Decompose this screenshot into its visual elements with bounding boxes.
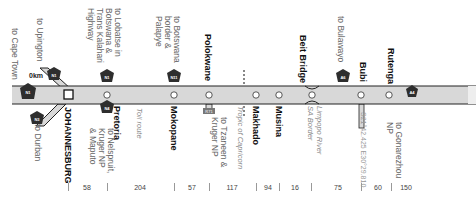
svg-text:A6: A6: [340, 75, 346, 80]
town-marker-musina: [276, 92, 282, 98]
svg-text:N1: N1: [25, 90, 31, 95]
label-limpopo-border: Limpopo River SA Border: [306, 106, 324, 154]
town-bubi: Bubi: [358, 62, 367, 82]
town-mokopane: Mokopane: [169, 106, 178, 151]
origin-marker: 0km: [29, 72, 43, 79]
johannesburg-marker: [64, 90, 73, 99]
town-polokwane: Polokwane: [203, 34, 212, 81]
label-toll-route: Toll route: [135, 108, 144, 139]
label-to-bulawayo: to Bulawayo: [336, 16, 345, 62]
town-marker-mokopane: [171, 92, 177, 98]
distance-mokopane-polokwane: 57: [188, 184, 196, 191]
town-beit-bridge: Beit Bridge: [298, 35, 307, 83]
distance-pretoria-mokopane: 204: [134, 184, 146, 191]
tick: [68, 183, 69, 191]
svg-text:N11: N11: [170, 75, 178, 80]
label-to-tzaneen: to Tzaneen & Kruger NP: [210, 117, 228, 167]
label-to-lobatse: to Lobatse in Botswana & Trans Kalahari …: [86, 8, 122, 63]
label-to-upington: to Upington: [35, 18, 44, 61]
svg-text:N4: N4: [104, 106, 110, 111]
distance-rutenga-onward: 150: [400, 184, 412, 191]
tick: [311, 183, 312, 191]
label-gps: S21°42.425 E30°29.810: [359, 112, 368, 187]
town-marker-bubi: [358, 92, 364, 98]
distance-bubi-rutenga: 60: [374, 184, 382, 191]
main-road: [12, 86, 476, 104]
label-to-nelspruit: to Nelspruit, Kruger NP & Maputo: [88, 128, 115, 173]
svg-text:A4: A4: [409, 90, 415, 95]
town-johannesburg: JOHANNESBURG: [63, 107, 72, 184]
tick: [174, 183, 175, 191]
tick: [391, 183, 392, 191]
tick: [107, 183, 108, 191]
tick: [361, 183, 362, 191]
tick: [209, 183, 210, 191]
distance-polokwane-makhado: 117: [226, 184, 237, 191]
town-makhado: Makhado: [251, 106, 260, 145]
town-marker-makhado: [253, 92, 259, 98]
distance-musina-beitbridge: 16: [291, 184, 299, 191]
svg-text:R71: R71: [205, 109, 213, 114]
distance-jhb-pretoria: 58: [83, 184, 91, 191]
tick: [256, 183, 257, 191]
label-to-gonarezhou: to Gonarezhou NP: [385, 122, 403, 178]
label-tropic-capricorn: Tropic of Capricorn: [236, 106, 245, 169]
town-musina: Musina: [274, 106, 283, 137]
town-marker-beitbridge: [309, 92, 315, 98]
label-to-cape-town: to Cape Town: [10, 28, 19, 80]
tick: [279, 183, 280, 191]
town-rutenga: Rutenga: [386, 48, 395, 84]
town-marker-rutenga: [386, 92, 392, 98]
svg-text:N1: N1: [51, 73, 57, 78]
distance-beitbridge-bubi: 75: [334, 184, 342, 191]
svg-text:N3: N3: [34, 117, 40, 122]
label-to-botswana-palapye: to Botswana border & Palapye: [154, 16, 181, 63]
distance-makhado-musina: 94: [264, 184, 272, 191]
town-marker-polokwane: [206, 92, 212, 98]
label-to-durban: to Durban: [33, 124, 42, 161]
svg-text:N1: N1: [104, 75, 110, 80]
town-marker-pretoria: [104, 92, 110, 98]
